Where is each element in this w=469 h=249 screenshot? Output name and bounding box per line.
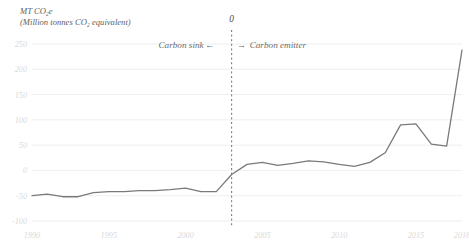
x-axis-tick-label: 1990 — [24, 231, 40, 240]
zero-reference-label: 0 — [229, 14, 234, 24]
y-axis-tick-label: 250 — [15, 40, 27, 49]
carbon-sink-label: Carbon sink — [158, 40, 204, 50]
carbon-emitter-label: Carbon emitter — [250, 40, 307, 50]
y-axis-tick-label: -100 — [12, 217, 27, 226]
chart-title-line1: MT CO₂e — [19, 6, 53, 16]
x-axis-tick-label: 2015 — [408, 231, 424, 240]
y-axis-tick-label: -50 — [16, 192, 27, 201]
y-axis-tick-label: 200 — [15, 65, 27, 74]
left-arrow-icon: ← — [205, 40, 214, 50]
chart-container: 250200150100500-50-100199019952000200520… — [0, 0, 469, 249]
y-axis-tick-label: 150 — [15, 91, 27, 100]
x-axis-tick-label: 2010 — [331, 231, 347, 240]
y-axis-tick-label: 0 — [23, 166, 27, 175]
y-axis-tick-label: 50 — [19, 141, 27, 150]
x-axis-tick-label: 2005 — [254, 231, 270, 240]
line-chart: 250200150100500-50-100199019952000200520… — [0, 0, 469, 249]
x-axis-tick-label: 1995 — [101, 231, 117, 240]
x-axis-tick-label: 2018 — [454, 231, 469, 240]
right-arrow-icon: → — [237, 40, 246, 50]
y-axis-tick-label: 100 — [15, 116, 27, 125]
chart-subtitle-line2: (Million tonnes CO₂ equivalent) — [20, 17, 131, 27]
data-line-series-net-forest-ghg-flux — [32, 50, 462, 197]
x-axis-tick-label: 2000 — [177, 231, 193, 240]
